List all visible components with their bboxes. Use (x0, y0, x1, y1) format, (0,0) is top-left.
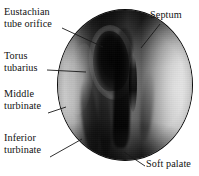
label-line: Septum (150, 9, 182, 21)
image-grain (57, 9, 193, 161)
label-line: Eustachian (4, 6, 52, 18)
endoscopic-image (57, 9, 193, 161)
label-soft-palate: Soft palate (146, 158, 191, 170)
label-torus-tubarius: Torus tubarius (4, 50, 38, 73)
anatomical-figure: Eustachian tube orifice Torus tubarius M… (0, 0, 199, 176)
label-eustachian-tube-orifice: Eustachian tube orifice (4, 6, 52, 29)
label-line: Inferior (4, 132, 41, 144)
label-septum: Septum (150, 9, 182, 21)
label-line: Torus (4, 50, 38, 62)
label-line: turbinate (4, 144, 41, 156)
label-middle-turbinate: Middle turbinate (4, 88, 41, 111)
label-line: Middle (4, 88, 41, 100)
label-line: Soft palate (146, 158, 191, 170)
label-line: tubarius (4, 62, 38, 74)
label-line: turbinate (4, 100, 41, 112)
label-line: tube orifice (4, 18, 52, 30)
label-inferior-turbinate: Inferior turbinate (4, 132, 41, 155)
